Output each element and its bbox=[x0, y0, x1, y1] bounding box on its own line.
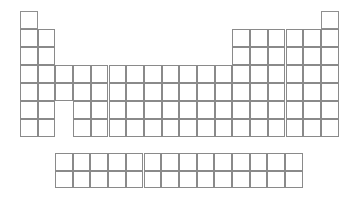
element-cell-p7-g11[interactable] bbox=[197, 119, 215, 137]
fblock-cell-r1-c1[interactable] bbox=[55, 153, 73, 171]
element-cell-p2-g1[interactable] bbox=[20, 29, 38, 47]
element-cell-p5-g18[interactable] bbox=[321, 83, 339, 101]
element-cell-p6-g15[interactable] bbox=[268, 101, 286, 119]
fblock-cell-r1-c12[interactable] bbox=[250, 153, 268, 171]
fblock-cell-r2-c11[interactable] bbox=[232, 171, 250, 189]
element-cell-p2-g13[interactable] bbox=[232, 29, 250, 47]
element-cell-p6-g18[interactable] bbox=[321, 101, 339, 119]
element-cell-p6-g11[interactable] bbox=[197, 101, 215, 119]
element-cell-p5-g2[interactable] bbox=[38, 83, 56, 101]
element-cell-p3-g14[interactable] bbox=[250, 47, 268, 65]
element-cell-p4-g17[interactable] bbox=[303, 65, 321, 83]
element-cell-p5-g1[interactable] bbox=[20, 83, 38, 101]
element-cell-p4-g15[interactable] bbox=[268, 65, 286, 83]
element-cell-p5-g11[interactable] bbox=[197, 83, 215, 101]
fblock-cell-r2-c1[interactable] bbox=[55, 171, 73, 189]
element-cell-p5-g5[interactable] bbox=[91, 83, 109, 101]
element-cell-p7-g8[interactable] bbox=[144, 119, 162, 137]
element-cell-p6-g2[interactable] bbox=[38, 101, 56, 119]
element-cell-p1-g1[interactable] bbox=[20, 11, 38, 29]
element-cell-p4-g1[interactable] bbox=[20, 65, 38, 83]
fblock-cell-r2-c9[interactable] bbox=[197, 171, 215, 189]
element-cell-p5-g7[interactable] bbox=[126, 83, 144, 101]
element-cell-p2-g18[interactable] bbox=[321, 29, 339, 47]
element-cell-p5-g8[interactable] bbox=[144, 83, 162, 101]
element-cell-p4-g8[interactable] bbox=[144, 65, 162, 83]
element-cell-p6-g16[interactable] bbox=[286, 101, 304, 119]
element-cell-p7-g4[interactable] bbox=[73, 119, 91, 137]
fblock-cell-r1-c3[interactable] bbox=[90, 153, 108, 171]
fblock-cell-r1-c13[interactable] bbox=[267, 153, 285, 171]
fblock-cell-r1-c7[interactable] bbox=[161, 153, 179, 171]
element-cell-p4-g9[interactable] bbox=[162, 65, 180, 83]
fblock-cell-r1-c14[interactable] bbox=[285, 153, 303, 171]
fblock-cell-r1-c2[interactable] bbox=[73, 153, 91, 171]
element-cell-p7-g6[interactable] bbox=[109, 119, 127, 137]
element-cell-p5-g9[interactable] bbox=[162, 83, 180, 101]
element-cell-p6-g13[interactable] bbox=[232, 101, 250, 119]
fblock-cell-r1-c4[interactable] bbox=[108, 153, 126, 171]
element-cell-p6-g9[interactable] bbox=[162, 101, 180, 119]
fblock-cell-r2-c5[interactable] bbox=[126, 171, 144, 189]
fblock-cell-r2-c13[interactable] bbox=[267, 171, 285, 189]
element-cell-p5-g12[interactable] bbox=[215, 83, 233, 101]
element-cell-p5-g13[interactable] bbox=[232, 83, 250, 101]
element-cell-p5-g15[interactable] bbox=[268, 83, 286, 101]
element-cell-p5-g10[interactable] bbox=[179, 83, 197, 101]
fblock-cell-r2-c12[interactable] bbox=[250, 171, 268, 189]
fblock-cell-r1-c6[interactable] bbox=[144, 153, 162, 171]
element-cell-p4-g7[interactable] bbox=[126, 65, 144, 83]
element-cell-p4-g5[interactable] bbox=[91, 65, 109, 83]
element-cell-p5-g14[interactable] bbox=[250, 83, 268, 101]
element-cell-p7-g9[interactable] bbox=[162, 119, 180, 137]
element-cell-p7-g2[interactable] bbox=[38, 119, 56, 137]
element-cell-p6-g4[interactable] bbox=[73, 101, 91, 119]
fblock-cell-r2-c8[interactable] bbox=[179, 171, 197, 189]
fblock-cell-r1-c11[interactable] bbox=[232, 153, 250, 171]
element-cell-p6-g17[interactable] bbox=[303, 101, 321, 119]
element-cell-p3-g2[interactable] bbox=[38, 47, 56, 65]
element-cell-p2-g17[interactable] bbox=[303, 29, 321, 47]
element-cell-p7-g15[interactable] bbox=[268, 119, 286, 137]
fblock-cell-r1-c8[interactable] bbox=[179, 153, 197, 171]
fblock-cell-r2-c14[interactable] bbox=[285, 171, 303, 189]
element-cell-p2-g2[interactable] bbox=[38, 29, 56, 47]
fblock-cell-r1-c9[interactable] bbox=[197, 153, 215, 171]
element-cell-p3-g17[interactable] bbox=[303, 47, 321, 65]
element-cell-p7-g16[interactable] bbox=[286, 119, 304, 137]
element-cell-p7-g13[interactable] bbox=[232, 119, 250, 137]
element-cell-p4-g4[interactable] bbox=[73, 65, 91, 83]
fblock-cell-r2-c2[interactable] bbox=[73, 171, 91, 189]
element-cell-p6-g1[interactable] bbox=[20, 101, 38, 119]
element-cell-p6-g8[interactable] bbox=[144, 101, 162, 119]
element-cell-p6-g10[interactable] bbox=[179, 101, 197, 119]
element-cell-p7-g12[interactable] bbox=[215, 119, 233, 137]
element-cell-p6-g14[interactable] bbox=[250, 101, 268, 119]
element-cell-p4-g12[interactable] bbox=[215, 65, 233, 83]
fblock-cell-r2-c10[interactable] bbox=[214, 171, 232, 189]
element-cell-p4-g11[interactable] bbox=[197, 65, 215, 83]
element-cell-p4-g18[interactable] bbox=[321, 65, 339, 83]
element-cell-p3-g16[interactable] bbox=[286, 47, 304, 65]
fblock-cell-r2-c4[interactable] bbox=[108, 171, 126, 189]
element-cell-p4-g6[interactable] bbox=[109, 65, 127, 83]
element-cell-p1-g18[interactable] bbox=[321, 11, 339, 29]
element-cell-p7-g5[interactable] bbox=[91, 119, 109, 137]
element-cell-p6-g12[interactable] bbox=[215, 101, 233, 119]
element-cell-p7-g7[interactable] bbox=[126, 119, 144, 137]
element-cell-p3-g13[interactable] bbox=[232, 47, 250, 65]
element-cell-p6-g6[interactable] bbox=[109, 101, 127, 119]
element-cell-p7-g1[interactable] bbox=[20, 119, 38, 137]
element-cell-p4-g14[interactable] bbox=[250, 65, 268, 83]
element-cell-p2-g16[interactable] bbox=[286, 29, 304, 47]
element-cell-p7-g10[interactable] bbox=[179, 119, 197, 137]
element-cell-p5-g16[interactable] bbox=[286, 83, 304, 101]
element-cell-p2-g14[interactable] bbox=[250, 29, 268, 47]
element-cell-p4-g2[interactable] bbox=[38, 65, 56, 83]
fblock-cell-r2-c6[interactable] bbox=[144, 171, 162, 189]
fblock-cell-r1-c10[interactable] bbox=[214, 153, 232, 171]
element-cell-p2-g15[interactable] bbox=[268, 29, 286, 47]
element-cell-p5-g6[interactable] bbox=[109, 83, 127, 101]
fblock-cell-r1-c5[interactable] bbox=[126, 153, 144, 171]
element-cell-p4-g10[interactable] bbox=[179, 65, 197, 83]
